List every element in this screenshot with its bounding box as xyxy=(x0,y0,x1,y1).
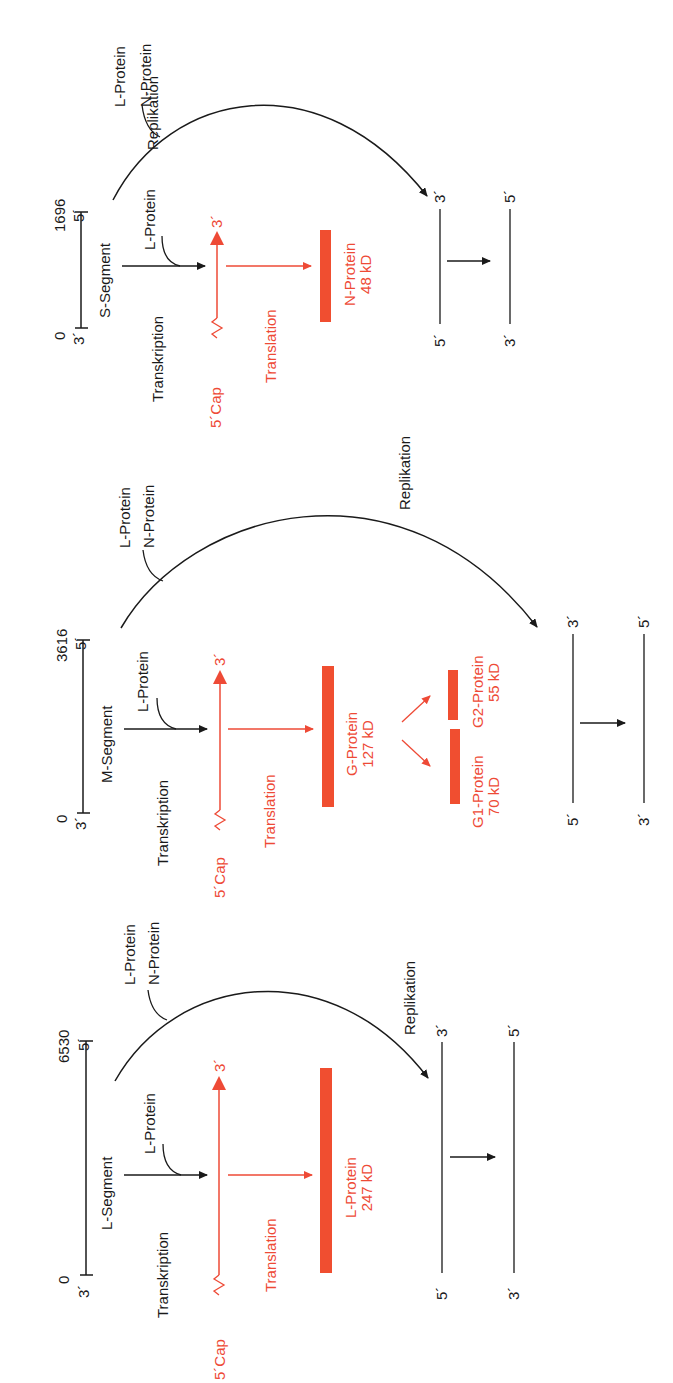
m-replication-cofactor-l: L-Protein xyxy=(117,487,133,548)
l-strand1-3prime: 3´ xyxy=(434,1024,450,1037)
m-mrna-3prime-label: 3´ xyxy=(212,653,228,666)
m-strand1-5prime: 5´ xyxy=(565,813,581,826)
l-5prime-label: 5´ xyxy=(76,1038,92,1051)
l-replication-cofactor-n: N-Protein xyxy=(146,922,162,985)
s-n-protein-bar xyxy=(320,230,331,322)
l-end-pos-label: 6530 xyxy=(56,1030,72,1063)
s-transcription-label: Transkription xyxy=(150,316,166,402)
s-transcription-cofactor: L-Protein xyxy=(142,189,158,250)
m-translation-label: Translation xyxy=(262,774,278,848)
s-3prime-label: 3´ xyxy=(71,332,87,345)
s-mrna-3prime-label: 3´ xyxy=(209,215,225,228)
l-mrna-cap-label: 5´Cap xyxy=(212,1339,228,1380)
m-g2-protein-bar xyxy=(448,670,458,720)
m-3prime-label: 3´ xyxy=(73,817,89,830)
s-end-pos-label: 1696 xyxy=(52,199,68,232)
m-strand1-3prime: 3´ xyxy=(565,615,581,628)
l-l-protein-bar xyxy=(320,1068,332,1273)
s-start-pos-label: 0 xyxy=(52,332,68,340)
m-g1-protein-size: 70 kD xyxy=(486,755,502,828)
m-5prime-label: 5´ xyxy=(73,637,89,650)
m-replication-cofactor-n: N-Protein xyxy=(141,485,157,548)
s-strand2-5prime: 5´ xyxy=(502,190,518,203)
m-protein-label: G-Protein 127 kD xyxy=(344,712,376,776)
l-strand1-5prime: 5´ xyxy=(434,1287,450,1300)
m-g2-protein-name: G2-Protein xyxy=(470,655,486,728)
l-3prime-label: 3´ xyxy=(76,1285,92,1298)
s-strand2-3prime: 3´ xyxy=(502,334,518,347)
m-g-protein-bar xyxy=(322,666,334,807)
l-strand2-3prime: 3´ xyxy=(506,1287,522,1300)
l-segment-name: L-Segment xyxy=(99,1157,115,1230)
m-replication-arc xyxy=(121,516,537,628)
s-strand1-5prime: 5´ xyxy=(432,334,448,347)
m-g2-protein-size: 55 kD xyxy=(486,655,502,728)
m-protein-name: G-Protein xyxy=(344,712,360,776)
l-replication-label: Replikation xyxy=(402,961,418,1035)
s-protein-label: N-Protein 48 kD xyxy=(342,243,374,306)
l-replication-arc xyxy=(115,991,428,1081)
m-g2-protein-label: G2-Protein 55 kD xyxy=(470,655,502,728)
s-strand1-3prime: 3´ xyxy=(432,190,448,203)
s-5prime-label: 5´ xyxy=(71,209,87,222)
l-replication-cofactor-l: L-Protein xyxy=(122,924,138,985)
m-g1-protein-bar xyxy=(450,729,460,804)
m-mrna-cap-label: 5´Cap xyxy=(212,857,228,898)
l-translation-label: Translation xyxy=(263,1218,279,1292)
m-transcription-label: Transkription xyxy=(155,780,171,866)
m-replication-label: Replikation xyxy=(397,436,413,510)
l-protein-label: L-Protein 247 kD xyxy=(343,1157,375,1218)
bunyavirus-replication-diagram: 0 3´ 1696 5´ S-Segment Transkription L-P… xyxy=(0,0,673,1383)
s-replication-label: Replikation xyxy=(145,76,161,150)
s-translation-label: Translation xyxy=(263,309,279,383)
l-start-pos-label: 0 xyxy=(56,1276,72,1284)
s-segment-name: S-Segment xyxy=(97,243,113,318)
m-cleavage-arrow-g2 xyxy=(402,696,430,722)
l-strand2-5prime: 5´ xyxy=(506,1024,522,1037)
m-end-pos-label: 3616 xyxy=(54,629,70,662)
m-protein-size: 127 kD xyxy=(360,712,376,776)
m-cleavage-arrow-g1 xyxy=(402,740,430,766)
m-strand2-3prime: 3´ xyxy=(636,813,652,826)
s-mrna-cap-label: 5´Cap xyxy=(208,387,224,428)
s-replication-cofactor-l: L-Protein xyxy=(112,46,128,107)
l-protein-size: 247 kD xyxy=(359,1157,375,1218)
s-protein-size: 48 kD xyxy=(358,243,374,306)
l-mrna-3prime-label: 3´ xyxy=(212,1059,228,1072)
m-transcription-cofactor: L-Protein xyxy=(135,651,151,712)
l-transcription-label: Transkription xyxy=(155,1232,171,1318)
m-g1-protein-name: G1-Protein xyxy=(470,755,486,828)
m-start-pos-label: 0 xyxy=(54,815,70,823)
m-segment-name: M-Segment xyxy=(99,705,115,783)
m-g1-protein-label: G1-Protein 70 kD xyxy=(470,755,502,828)
l-transcription-cofactor: L-Protein xyxy=(142,1093,158,1154)
s-protein-name: N-Protein xyxy=(342,243,358,306)
l-protein-name: L-Protein xyxy=(343,1157,359,1218)
m-strand2-5prime: 5´ xyxy=(636,615,652,628)
